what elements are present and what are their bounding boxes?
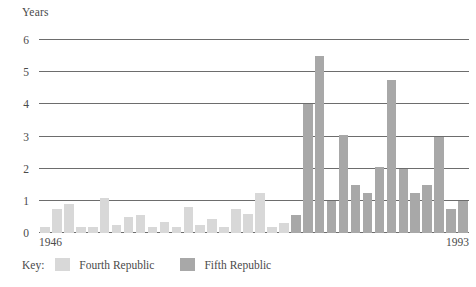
- bar: [279, 223, 289, 233]
- bar-series-container: [39, 40, 469, 233]
- bar: [100, 198, 110, 233]
- bar: [124, 217, 134, 233]
- bar: [351, 185, 361, 233]
- legend-swatch-fourth-republic: [55, 258, 70, 271]
- bar: [40, 227, 50, 233]
- y-tick-label-5: 5: [23, 66, 29, 78]
- bar: [160, 222, 170, 233]
- y-tick-label-1: 1: [23, 195, 29, 207]
- bar: [52, 209, 62, 233]
- y-tick-label-0: 0: [23, 227, 29, 239]
- x-axis-start-label: 1946: [39, 236, 62, 248]
- legend-key-label: Key:: [22, 259, 44, 271]
- bar: [195, 225, 205, 233]
- y-axis-title: Years: [22, 6, 49, 18]
- bar: [88, 227, 98, 233]
- bar: [184, 207, 194, 233]
- bar: [136, 215, 146, 233]
- bar: [172, 227, 182, 233]
- y-axis-tick-labels: 0123456: [0, 40, 39, 233]
- bar: [291, 215, 301, 233]
- y-tick-label-4: 4: [23, 98, 29, 110]
- bar: [76, 227, 86, 233]
- legend: Key: Fourth Republic Fifth Republic: [22, 258, 297, 271]
- bar: [375, 167, 385, 233]
- legend-label-fifth-republic: Fifth Republic: [204, 259, 271, 271]
- bar: [387, 80, 397, 233]
- bar: [363, 193, 373, 233]
- bar: [446, 209, 456, 233]
- legend-entry-fifth-republic: Fifth Republic: [180, 258, 271, 271]
- bar: [422, 185, 432, 233]
- bar: [112, 225, 122, 233]
- bar: [255, 193, 265, 233]
- y-tick-label-6: 6: [23, 34, 29, 46]
- legend-swatch-fifth-republic: [180, 258, 195, 271]
- bar: [207, 219, 217, 233]
- bar: [231, 209, 241, 233]
- bar: [327, 201, 337, 233]
- bar: [64, 204, 74, 233]
- bar: [458, 201, 468, 233]
- legend-entry-fourth-republic: Fourth Republic: [55, 258, 154, 271]
- bar: [243, 214, 253, 233]
- x-axis-end-label: 1993: [446, 236, 469, 248]
- bar: [434, 137, 444, 234]
- bar-chart: Years 0123456 1946 1993 Key: Fourth Repu…: [0, 0, 476, 287]
- bar: [315, 56, 325, 233]
- bar: [267, 227, 277, 233]
- x-axis-tick-labels: 1946 1993: [39, 236, 469, 252]
- bar: [410, 193, 420, 233]
- bar: [339, 135, 349, 233]
- bar: [219, 227, 229, 233]
- bar: [399, 169, 409, 233]
- y-tick-label-3: 3: [23, 131, 29, 143]
- bar: [303, 104, 313, 233]
- y-tick-label-2: 2: [23, 163, 29, 175]
- bar: [148, 227, 158, 233]
- legend-label-fourth-republic: Fourth Republic: [79, 259, 154, 271]
- plot-area: [39, 40, 469, 233]
